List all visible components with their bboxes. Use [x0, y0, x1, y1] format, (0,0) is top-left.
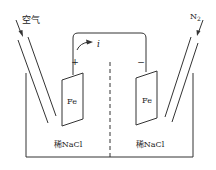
right-polarity-sign: −: [137, 57, 145, 67]
left-solution-label: 稀NaCl: [54, 139, 83, 149]
right-electrode-label: Fe: [142, 96, 152, 105]
right-solution-label: 稀NaCl: [136, 139, 165, 149]
left-electrode-label: Fe: [67, 97, 77, 106]
n2-arrowhead-icon: [197, 30, 201, 36]
current-arrowhead-icon: [86, 40, 93, 45]
air-arrowhead-icon: [19, 30, 24, 37]
n2-label: N2: [190, 12, 201, 22]
left-inlet-tube-inner: [28, 37, 56, 116]
current-label: i: [97, 39, 100, 49]
external-wire: [73, 33, 146, 75]
electrochemical-cell-diagram: i + − Fe Fe 空气 N2 稀NaCl 稀NaCl: [0, 0, 216, 170]
air-label: 空气: [22, 14, 40, 25]
left-polarity-sign: +: [71, 57, 79, 67]
